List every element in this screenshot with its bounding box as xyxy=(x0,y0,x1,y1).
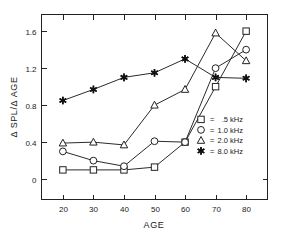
legend-equals: = xyxy=(210,126,215,135)
data-point-marker xyxy=(90,138,97,145)
data-point-marker xyxy=(60,97,67,105)
legend-label: 8.0 kHz xyxy=(218,147,244,156)
chart-container: 00.40.81.21.6 20304050607080 =.5 kHz=1.0… xyxy=(0,0,283,235)
x-tick-label: 30 xyxy=(89,205,98,214)
data-point-marker xyxy=(90,167,96,173)
x-axis-ticks: 20304050607080 xyxy=(59,195,251,214)
data-point-marker xyxy=(212,29,219,36)
legend-marker-square-open xyxy=(198,116,204,122)
data-point-marker xyxy=(212,83,218,89)
legend-marker-triangle-open xyxy=(197,137,204,144)
x-tick-label: 50 xyxy=(151,205,160,214)
x-tick-label: 70 xyxy=(212,205,221,214)
y-axis-ticks: 00.40.81.21.6 xyxy=(25,28,267,185)
legend-equals: = xyxy=(210,115,215,124)
data-point-marker xyxy=(151,138,158,145)
data-point-marker xyxy=(182,55,189,63)
legend-label: .5 kHz xyxy=(222,115,244,124)
series-line xyxy=(63,59,246,101)
y-axis-title: Δ SPL/Δ AGE xyxy=(9,76,19,137)
y-tick-label: 0.4 xyxy=(25,139,37,148)
top-axis-ticks xyxy=(64,15,247,20)
x-tick-label: 60 xyxy=(181,205,190,214)
x-tick-label: 80 xyxy=(242,205,251,214)
legend-marker-star-filled xyxy=(198,147,205,155)
data-point-marker xyxy=(121,163,128,170)
y-tick-label: 1.2 xyxy=(25,65,37,74)
data-point-marker xyxy=(182,139,189,146)
x-tick-label: 40 xyxy=(120,205,129,214)
data-point-marker xyxy=(212,65,219,72)
data-point-marker xyxy=(151,164,157,170)
y-tick-label: 0.8 xyxy=(25,102,37,111)
data-point-marker xyxy=(243,28,249,34)
data-point-marker xyxy=(243,46,250,53)
y-tick-label: 1.6 xyxy=(25,28,37,37)
chart-legend: =.5 kHz=1.0 kHz=2.0 kHz=8.0 kHz xyxy=(197,115,243,156)
x-tick-label: 20 xyxy=(59,205,68,214)
legend-equals: = xyxy=(210,147,215,156)
chart-plot: 00.40.81.21.6 20304050607080 =.5 kHz=1.0… xyxy=(0,0,283,235)
data-point-marker xyxy=(59,148,66,155)
data-point-marker xyxy=(60,167,66,173)
y-tick-label: 0 xyxy=(32,176,37,185)
series-80khz xyxy=(60,55,250,104)
legend-label: 1.0 kHz xyxy=(218,126,244,135)
data-point-marker xyxy=(151,101,158,108)
data-point-marker xyxy=(90,157,97,164)
legend-equals: = xyxy=(210,136,215,145)
data-point-marker xyxy=(90,86,97,94)
x-axis-title: AGE xyxy=(144,220,165,230)
data-point-marker xyxy=(181,86,188,93)
legend-marker-circle-open xyxy=(198,126,205,133)
legend-label: 2.0 kHz xyxy=(218,136,244,145)
